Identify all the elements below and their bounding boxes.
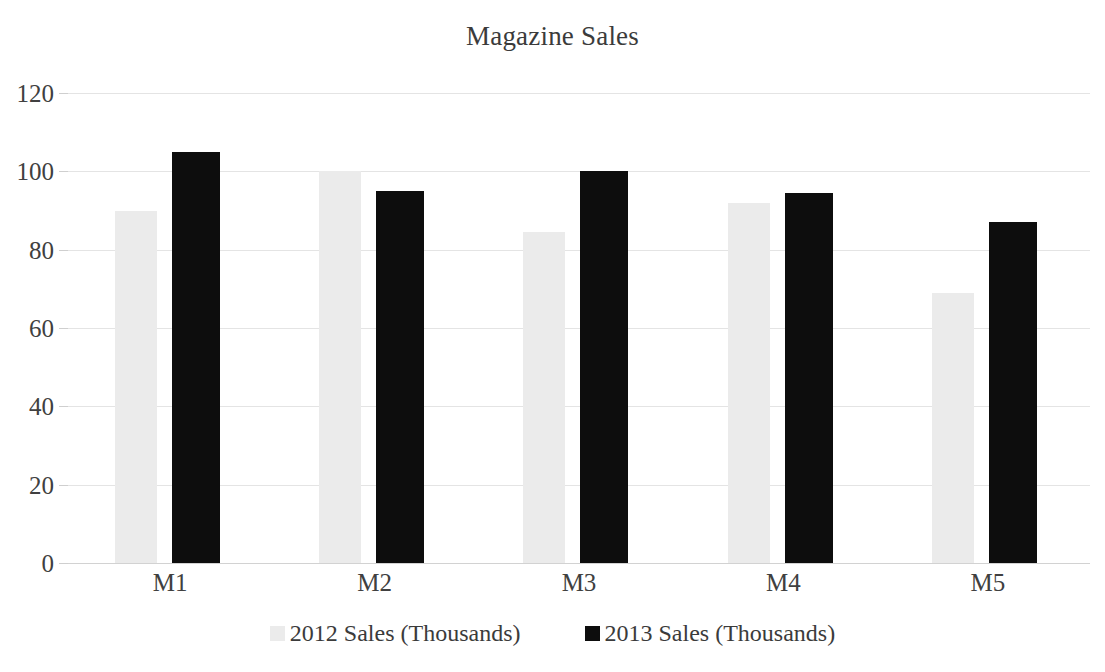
x-tick-label-m3: M3 (562, 568, 597, 598)
bar-groups (68, 93, 1090, 563)
y-tickmark-120 (59, 93, 68, 94)
y-axis-labels: 020406080100120 (0, 93, 54, 563)
bar-m1-2013[interactable] (172, 152, 220, 563)
bar-m3-2012[interactable] (523, 232, 565, 563)
bar-m5-2012[interactable] (932, 293, 974, 563)
x-tick-label-m5: M5 (970, 568, 1005, 598)
plot-area (68, 93, 1090, 563)
gridline-0 (68, 563, 1090, 564)
legend-swatch-icon (270, 626, 285, 641)
y-tick-label: 40 (29, 394, 54, 419)
y-tickmark-100 (59, 171, 68, 172)
bar-m5-2013[interactable] (989, 222, 1037, 563)
y-tick-label: 20 (29, 472, 54, 497)
legend-label: 2013 Sales (Thousands) (605, 620, 836, 646)
chart-container: Magazine Sales 020406080100120 M1M2M3M4M… (0, 0, 1105, 672)
y-tick-label: 0 (42, 551, 55, 576)
chart-title: Magazine Sales (0, 22, 1105, 52)
bar-m2-2012[interactable] (319, 171, 361, 563)
bar-m3-2013[interactable] (580, 171, 628, 563)
y-tick-label: 100 (17, 159, 55, 184)
x-tick-label-m1: M1 (153, 568, 188, 598)
y-tickmark-0 (59, 563, 68, 564)
x-tick-label-m2: M2 (357, 568, 392, 598)
x-axis-labels: M1M2M3M4M5 (68, 568, 1090, 608)
chart-legend: 2012 Sales (Thousands)2013 Sales (Thousa… (0, 620, 1105, 646)
bar-m4-2012[interactable] (728, 203, 770, 563)
bar-group-m3 (477, 93, 681, 563)
y-tick-label: 60 (29, 316, 54, 341)
bar-group-m4 (681, 93, 885, 563)
bar-group-m2 (272, 93, 476, 563)
legend-item-2012[interactable]: 2012 Sales (Thousands) (270, 620, 521, 646)
y-tickmark-40 (59, 406, 68, 407)
y-tick-label: 80 (29, 237, 54, 262)
legend-label: 2012 Sales (Thousands) (290, 620, 521, 646)
y-tick-label: 120 (17, 81, 55, 106)
bar-group-m1 (68, 93, 272, 563)
bar-m1-2012[interactable] (115, 211, 157, 564)
bar-m2-2013[interactable] (376, 191, 424, 563)
legend-swatch-icon (585, 626, 600, 641)
legend-item-2013[interactable]: 2013 Sales (Thousands) (585, 620, 836, 646)
y-tickmark-20 (59, 485, 68, 486)
x-tick-label-m4: M4 (766, 568, 801, 598)
bar-m4-2013[interactable] (785, 193, 833, 563)
y-tickmark-80 (59, 250, 68, 251)
bar-group-m5 (886, 93, 1090, 563)
y-tickmark-60 (59, 328, 68, 329)
